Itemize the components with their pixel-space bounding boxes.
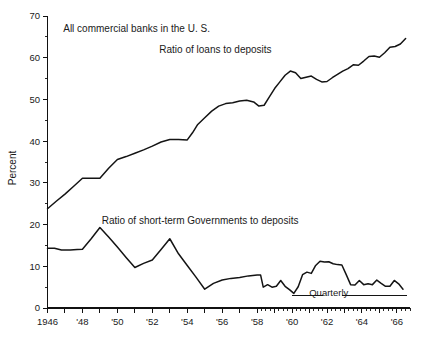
- x-tick-label: '52: [146, 316, 158, 327]
- tick-labels: 0102030405060701946'48'50'52'54'56'58'60…: [29, 10, 403, 327]
- x-tick-label: '58: [251, 316, 263, 327]
- quarterly-note: Quarterly: [309, 287, 348, 298]
- x-tick-label: '48: [76, 316, 88, 327]
- y-tick-label: 10: [29, 261, 40, 272]
- x-tick-label: '56: [216, 316, 228, 327]
- x-tick-label: '64: [356, 316, 368, 327]
- y-tick-label: 50: [29, 94, 40, 105]
- line-chart: 0102030405060701946'48'50'52'54'56'58'60…: [0, 0, 425, 350]
- y-axis-title: Percent: [7, 151, 18, 186]
- loans-to-deposits-line: [48, 39, 406, 209]
- series-layer: [48, 39, 406, 294]
- y-tick-label: 60: [29, 52, 40, 63]
- y-tick-label: 70: [29, 10, 40, 21]
- y-axis: [43, 16, 48, 308]
- y-tick-label: 40: [29, 136, 40, 147]
- x-axis: [48, 308, 411, 313]
- governments-series-label: Ratio of short-term Governments to depos…: [102, 215, 299, 226]
- y-tick-label: 30: [29, 177, 40, 188]
- x-tick-label: '54: [181, 316, 193, 327]
- header-note: All commercial banks in the U. S.: [63, 23, 210, 34]
- x-tick-label: '66: [391, 316, 403, 327]
- annotations-layer: All commercial banks in the U. S.Ratio o…: [63, 23, 348, 298]
- loans-series-label: Ratio of loans to deposits: [159, 44, 271, 55]
- short-term-governments-line: [48, 227, 404, 293]
- x-tick-label: '62: [321, 316, 333, 327]
- x-tick-label: 1946: [37, 316, 58, 327]
- y-tick-label: 0: [35, 302, 40, 313]
- x-tick-label: '60: [286, 316, 298, 327]
- x-tick-label: '50: [111, 316, 123, 327]
- chart-container: 0102030405060701946'48'50'52'54'56'58'60…: [0, 0, 425, 350]
- y-tick-label: 20: [29, 219, 40, 230]
